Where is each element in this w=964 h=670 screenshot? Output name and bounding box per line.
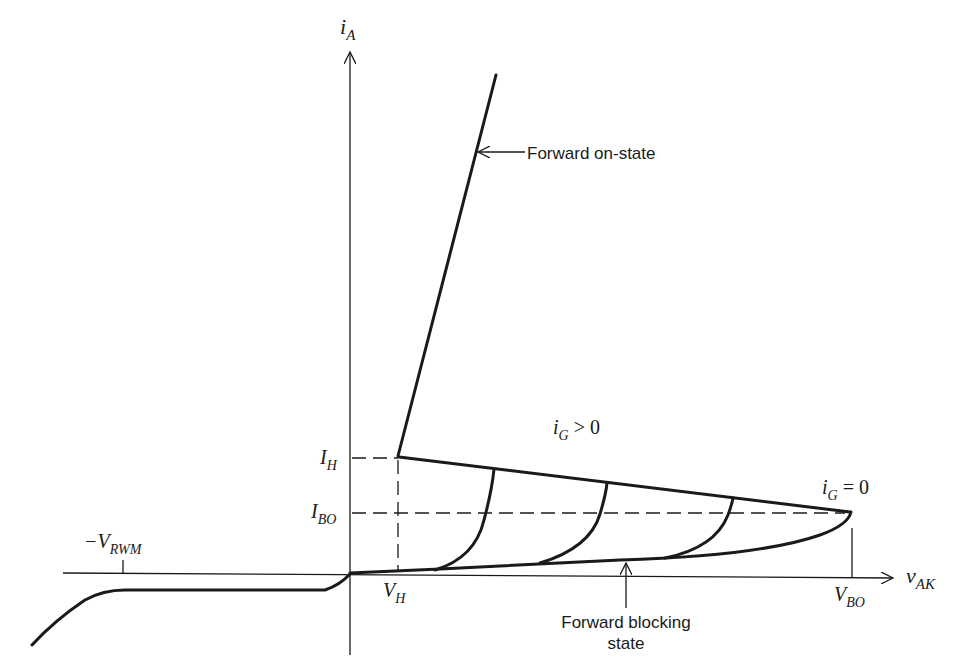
gate-positive-label: iG > 0 [553,416,600,443]
reverse-blocking-curve [32,574,350,645]
thyristor-characteristic-diagram: iA vAK IH IBO VH VBO −VRWM iG > 0 iG = 0… [0,0,964,670]
forward-blocking-annotation-line1: Forward blocking [561,613,690,632]
forward-on-state-annotation: Forward on-state [527,144,656,163]
holding-voltage-label: VH [383,579,406,606]
forward-blocking-annotation-line2: state [608,634,645,653]
gate-zero-label: iG = 0 [822,476,869,503]
x-axis-label: vAK [906,563,936,592]
forward-on-state-curve [398,75,496,456]
x-axis [63,573,893,578]
reverse-working-voltage-label: −VRWM [84,530,143,557]
gate-current-curve-1 [435,469,494,570]
gate-current-curve-2 [540,483,607,563]
gate-current-curve-3 [665,498,733,558]
y-axis-label: iA [340,14,356,43]
breakover-current-label: IBO [310,500,336,527]
gate-zero-upper-curve [399,457,850,512]
breakover-voltage-label: VBO [834,583,865,610]
holding-current-label: IH [319,446,338,473]
forward-blocking-curve [350,512,851,573]
